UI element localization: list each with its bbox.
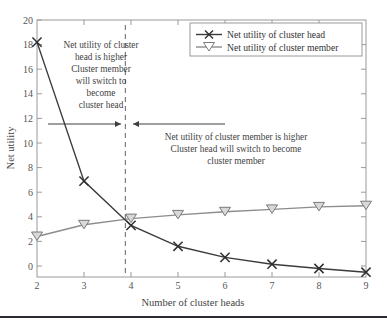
y-tick-label: 20 <box>23 15 33 26</box>
left-anno-line: Cluster member <box>71 64 132 74</box>
x-tick-label: 6 <box>223 280 228 291</box>
legend-label-cluster-head: Net utility of cluster head <box>227 29 325 40</box>
bottom-rule-divider <box>0 316 387 318</box>
y-tick-label: 8 <box>28 162 33 173</box>
series-cluster-member <box>32 201 372 240</box>
x-tick-label: 9 <box>364 280 369 291</box>
x-tick-labels: 2 3 4 5 6 7 8 9 <box>35 280 369 291</box>
y-tick-label: 16 <box>23 64 33 75</box>
x-tick-label: 4 <box>129 280 134 291</box>
x-tick-label: 5 <box>176 280 181 291</box>
right-anno-line: cluster member <box>207 156 265 166</box>
legend-label-cluster-member: Net utility of cluster member <box>227 42 339 53</box>
right-anno-line: Net utility of cluster member is higher <box>165 132 308 142</box>
y-tick-label: 10 <box>23 138 33 149</box>
x-axis-title: Number of cluster heads <box>142 297 245 308</box>
x-tick-label: 7 <box>270 280 275 291</box>
left-anno-line: become <box>87 88 116 98</box>
left-anno-line: cluster head <box>79 100 124 110</box>
left-anno-line: Net utility of cluster <box>63 40 139 50</box>
y-tick-label: 14 <box>23 88 33 99</box>
y-tick-label: 0 <box>28 261 33 272</box>
x-tick-label: 3 <box>82 280 87 291</box>
net-utility-line-chart: 0 2 4 6 8 10 12 14 16 18 20 2 3 4 5 6 7 … <box>0 0 387 326</box>
right-region-annotation: Net utility of cluster member is higher … <box>165 132 308 166</box>
x-tick-label: 2 <box>35 280 40 291</box>
y-tick-labels: 0 2 4 6 8 10 12 14 16 18 20 <box>23 15 33 272</box>
x-tick-label: 8 <box>317 280 322 291</box>
right-anno-line: Cluster head will switch to become <box>171 144 302 154</box>
y-tick-label: 6 <box>28 187 33 198</box>
y-tick-label: 12 <box>23 113 33 124</box>
series-markers-cluster-member <box>32 201 372 240</box>
chart-figure: 0 2 4 6 8 10 12 14 16 18 20 2 3 4 5 6 7 … <box>0 0 387 326</box>
left-anno-line: will switch to <box>76 76 127 86</box>
y-tick-label: 2 <box>28 236 33 247</box>
y-tick-label: 4 <box>28 211 33 222</box>
y-axis-title: Net utility <box>5 126 16 170</box>
left-region-annotation: Net utility of cluster head is higher Cl… <box>63 40 139 110</box>
chart-legend[interactable]: Net utility of cluster head Net utility … <box>190 23 362 56</box>
y-tick-label: 18 <box>23 39 33 50</box>
left-anno-line: head is higher <box>75 52 128 62</box>
